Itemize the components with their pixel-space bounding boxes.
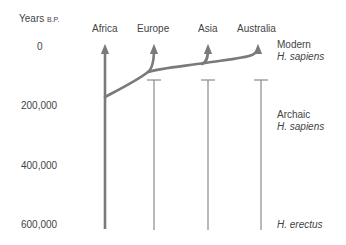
modern-branch — [105, 49, 258, 97]
archaic-lineages — [147, 80, 268, 230]
lineage-diagram — [0, 0, 346, 245]
